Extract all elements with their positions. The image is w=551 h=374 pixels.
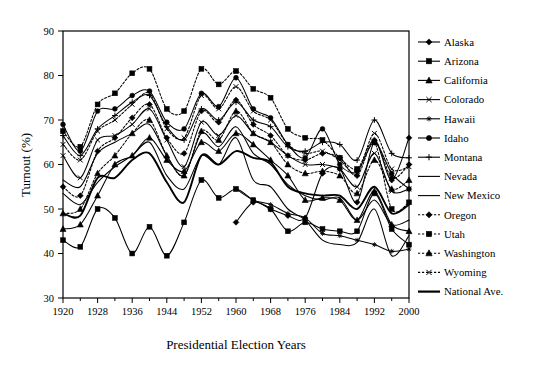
legend-item-california[interactable]: California: [418, 74, 488, 86]
x-tick-label: 1992: [364, 306, 385, 317]
data-point-marker-square: [320, 227, 325, 232]
legend-item-national-ave[interactable]: National Ave.: [418, 285, 503, 297]
data-point-marker-square: [337, 229, 342, 234]
data-point-marker-star: [234, 187, 239, 192]
x-tick-label: 1960: [226, 306, 247, 317]
data-point-marker-square: [113, 91, 118, 96]
y-tick-label: 80: [44, 70, 55, 81]
data-point-marker-circle: [95, 109, 100, 114]
data-point-marker-triangle: [285, 161, 291, 167]
data-point-marker-square: [199, 66, 204, 71]
data-point-marker-square: [355, 229, 360, 234]
x-tick-label: 1952: [191, 306, 212, 317]
data-point-marker-square: [286, 127, 291, 132]
series-washington: [60, 108, 412, 216]
y-axis-tick-labels: 30405060708090: [44, 26, 55, 304]
data-point-marker-square: [95, 102, 100, 107]
data-point-marker-square: [130, 71, 135, 76]
data-point-marker-diamond: [426, 39, 432, 45]
x-tick-label: 1944: [156, 306, 178, 317]
data-point-marker-square: [268, 207, 273, 212]
legend-label: Hawaii: [444, 113, 475, 125]
data-point-marker-star: [268, 202, 273, 207]
data-point-marker-square: [95, 207, 100, 212]
legend-label: Utah: [444, 228, 466, 240]
turnout-line-chart: 1920192819361944195219601968197619841992…: [0, 0, 551, 374]
legend-item-nevada[interactable]: Nevada: [418, 170, 477, 182]
data-point-marker-triangle: [233, 108, 239, 114]
data-point-marker-square: [147, 66, 152, 71]
legend-label: Nevada: [444, 170, 477, 182]
data-point-marker-star: [251, 198, 256, 203]
data-point-marker-square: [268, 95, 273, 100]
data-point-marker-triangle: [147, 135, 153, 141]
data-point-marker-circle: [337, 162, 342, 167]
x-tick-label: 1968: [260, 306, 281, 317]
legend-label: Arizona: [444, 55, 479, 67]
chart-figure: 1920192819361944195219601968197619841992…: [0, 0, 551, 374]
data-point-marker-plus: [406, 155, 412, 161]
legend-item-hawaii[interactable]: Hawaii: [418, 113, 475, 125]
data-point-marker-star: [426, 116, 431, 121]
legend-label: New Mexico: [444, 189, 500, 201]
legend-item-washington[interactable]: Washington: [418, 247, 496, 259]
series-layer: [60, 66, 412, 258]
legend-label: Colorado: [444, 93, 484, 105]
x-tick-label: 1936: [122, 306, 143, 317]
y-tick-label: 50: [44, 204, 55, 215]
legend-item-arizona[interactable]: Arizona: [418, 55, 479, 67]
data-point-marker-star: [407, 247, 412, 252]
data-point-marker-star: [372, 242, 377, 247]
data-point-marker-diamond: [354, 199, 360, 205]
data-point-marker-x: [95, 138, 100, 143]
legend-label: Alaska: [444, 36, 474, 48]
legend-item-oregon[interactable]: Oregon: [418, 209, 477, 221]
legend-label: California: [444, 74, 488, 86]
legend-item-alaska[interactable]: Alaska: [418, 36, 474, 48]
legend-label: National Ave.: [444, 285, 503, 297]
data-point-marker-circle: [113, 106, 118, 111]
y-axis-title: Turnout (%): [18, 133, 33, 197]
data-point-marker-plus: [426, 154, 432, 160]
data-point-marker-x: [199, 120, 204, 125]
data-point-marker-square: [426, 231, 431, 236]
data-point-marker-square: [130, 251, 135, 256]
data-point-marker-diamond: [95, 148, 101, 154]
x-tick-label: 1984: [329, 306, 351, 317]
data-point-marker-circle: [130, 93, 135, 98]
data-point-marker-square: [355, 167, 360, 172]
data-point-marker-circle: [61, 122, 66, 127]
data-point-marker-star: [337, 233, 342, 238]
legend-item-wyoming[interactable]: Wyoming: [418, 266, 487, 278]
legend-item-utah[interactable]: Utah: [418, 228, 466, 240]
x-tick-label: 1976: [295, 306, 316, 317]
legend-item-new-mexico[interactable]: New Mexico: [418, 189, 500, 201]
data-point-marker-square: [164, 253, 169, 258]
data-point-marker-square: [286, 229, 291, 234]
y-tick-label: 60: [44, 159, 55, 170]
data-point-marker-triangle: [95, 192, 101, 198]
legend-item-idaho[interactable]: Idaho: [418, 132, 469, 144]
data-point-marker-square: [61, 129, 66, 134]
x-axis-ticks: [63, 298, 409, 303]
data-point-marker-x: [130, 122, 135, 127]
legend-item-colorado[interactable]: Colorado: [418, 93, 484, 105]
data-point-marker-square: [216, 82, 221, 87]
x-tick-label: 1920: [53, 306, 74, 317]
legend-label: Idaho: [444, 132, 469, 144]
data-point-marker-square: [199, 178, 204, 183]
data-point-marker-square: [303, 135, 308, 140]
data-point-marker-star: [320, 231, 325, 236]
data-point-marker-circle: [320, 126, 325, 131]
data-point-marker-square: [372, 140, 377, 145]
data-point-marker-square: [147, 224, 152, 229]
data-point-marker-diamond: [406, 135, 412, 141]
legend-item-montana[interactable]: Montana: [418, 151, 483, 163]
x-axis-title: Presidential Election Years: [166, 337, 306, 352]
data-point-marker-square: [182, 220, 187, 225]
series-colorado: [61, 106, 412, 193]
data-point-marker-square: [216, 195, 221, 200]
data-point-marker-square: [389, 227, 394, 232]
data-point-marker-diamond: [181, 150, 187, 156]
data-point-marker-square: [407, 242, 412, 247]
